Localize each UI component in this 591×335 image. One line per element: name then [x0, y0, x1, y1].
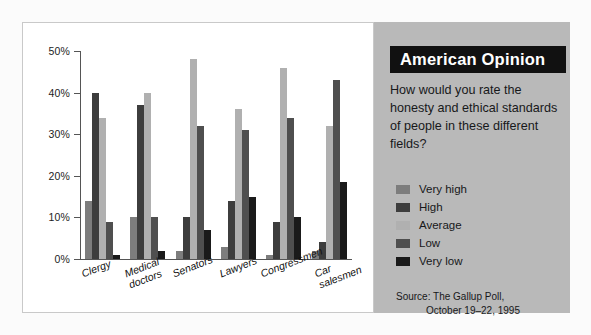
- bar: [99, 118, 106, 259]
- legend-item: High: [396, 198, 566, 216]
- source-note: Source: The Gallup Poll, October 19–22, …: [396, 290, 568, 317]
- bar-group: [261, 51, 306, 259]
- bar: [197, 126, 204, 259]
- y-tick-label: 0%: [54, 253, 70, 265]
- legend-item: Very low: [396, 252, 566, 270]
- bar: [176, 251, 183, 259]
- legend-swatch: [396, 185, 410, 194]
- y-tick-label: 30%: [48, 128, 70, 140]
- y-tick-label: 50%: [48, 45, 70, 57]
- panel-banner: American Opinion: [390, 46, 566, 73]
- bar: [249, 197, 256, 259]
- legend-item: Average: [396, 216, 566, 234]
- bar-group: [125, 51, 170, 259]
- bar: [106, 222, 113, 259]
- bar-group: [307, 51, 352, 259]
- plot-panel: 0%10%20%30%40%50% ClergyMedical doctorsS…: [22, 22, 374, 313]
- legend-label: Average: [419, 219, 462, 231]
- chart-figure: 0%10%20%30%40%50% ClergyMedical doctorsS…: [22, 22, 570, 313]
- side-panel: American Opinion How would you rate the …: [374, 22, 570, 313]
- bar: [151, 217, 158, 259]
- x-axis-label: Clergy: [80, 258, 113, 280]
- screenshot-root: 0%10%20%30%40%50% ClergyMedical doctorsS…: [0, 0, 591, 335]
- legend-item: Very high: [396, 180, 566, 198]
- bar: [190, 59, 197, 259]
- y-tick: [74, 259, 80, 260]
- y-tick-label: 10%: [48, 211, 70, 223]
- bar: [85, 201, 92, 259]
- bar: [158, 251, 165, 259]
- bar: [92, 93, 99, 259]
- bar: [273, 222, 280, 259]
- bar: [280, 68, 287, 259]
- legend-label: Very low: [419, 255, 462, 267]
- source-line-2: October 19–22, 1995: [396, 304, 568, 318]
- legend-label: High: [419, 201, 443, 213]
- bar: [130, 217, 137, 259]
- legend-item: Low: [396, 234, 566, 252]
- bar: [326, 126, 333, 259]
- panel-question: How would you rate the honesty and ethic…: [390, 82, 566, 154]
- bar: [113, 255, 120, 259]
- bar-group: [171, 51, 216, 259]
- legend-swatch: [396, 203, 410, 212]
- legend: Very highHighAverageLowVery low: [396, 180, 566, 270]
- legend-label: Very high: [419, 183, 467, 195]
- bar-group: [80, 51, 125, 259]
- y-tick-label: 40%: [48, 87, 70, 99]
- bar: [235, 109, 242, 259]
- x-axis-label: Medical doctors: [123, 256, 165, 291]
- y-tick-label: 20%: [48, 170, 70, 182]
- legend-swatch: [396, 239, 410, 248]
- bar-group: [216, 51, 261, 259]
- bar: [333, 80, 340, 259]
- panel-title: American Opinion: [400, 50, 545, 69]
- bar: [137, 105, 144, 259]
- bar: [144, 93, 151, 259]
- bar: [287, 118, 294, 259]
- bar: [340, 182, 347, 259]
- bar-groups: [80, 51, 352, 259]
- bar: [183, 217, 190, 259]
- bar: [266, 255, 273, 259]
- legend-label: Low: [419, 237, 440, 249]
- source-line-1: Source: The Gallup Poll,: [396, 291, 504, 302]
- x-axis-labels: ClergyMedical doctorsSenatorsLawyersCong…: [80, 263, 352, 313]
- legend-swatch: [396, 221, 410, 230]
- plot-area: 0%10%20%30%40%50%: [80, 51, 352, 259]
- bar: [221, 247, 228, 259]
- bar: [242, 130, 249, 259]
- legend-swatch: [396, 257, 410, 266]
- bar: [228, 201, 235, 259]
